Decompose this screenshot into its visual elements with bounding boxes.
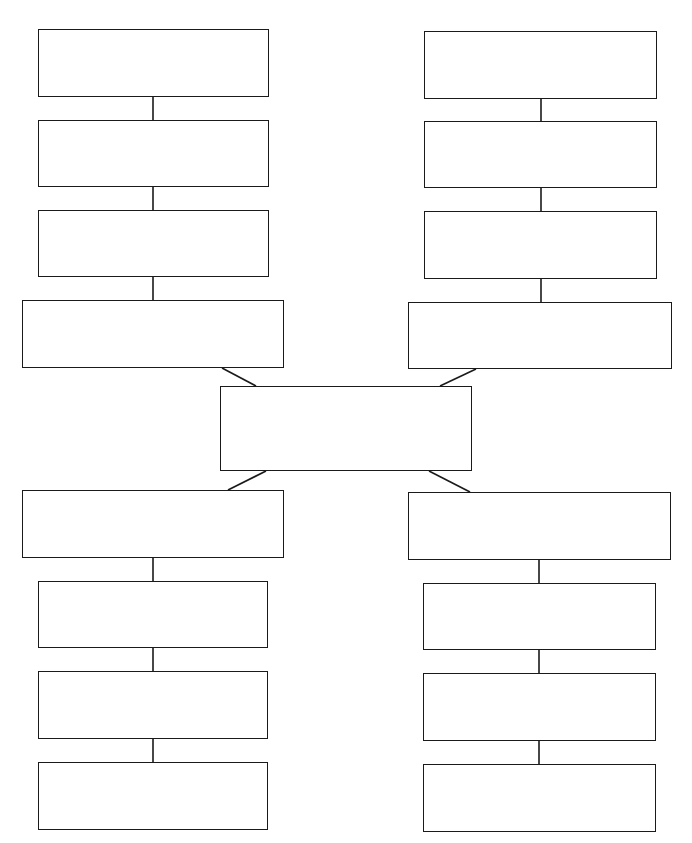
connector-line bbox=[222, 368, 256, 386]
top-left-box-2[interactable] bbox=[38, 120, 269, 187]
top-right-box-2[interactable] bbox=[424, 121, 657, 188]
bottom-right-box-4[interactable] bbox=[423, 764, 656, 832]
bottom-left-box-2[interactable] bbox=[38, 581, 268, 648]
center-box[interactable] bbox=[220, 386, 472, 471]
bottom-left-box-4[interactable] bbox=[38, 762, 268, 830]
bottom-left-box-1[interactable] bbox=[22, 490, 284, 558]
bottom-right-box-2[interactable] bbox=[423, 583, 656, 650]
top-left-box-4[interactable] bbox=[22, 300, 284, 368]
bottom-left-box-3[interactable] bbox=[38, 671, 268, 739]
top-right-box-3[interactable] bbox=[424, 211, 657, 279]
top-left-box-1[interactable] bbox=[38, 29, 269, 97]
top-left-box-3[interactable] bbox=[38, 210, 269, 277]
connector-line bbox=[228, 471, 266, 490]
connector-line bbox=[440, 369, 476, 386]
connector-line bbox=[429, 471, 470, 492]
bottom-right-box-1[interactable] bbox=[408, 492, 671, 560]
top-right-box-4[interactable] bbox=[408, 302, 672, 369]
graphic-organizer-canvas bbox=[0, 0, 692, 843]
bottom-right-box-3[interactable] bbox=[423, 673, 656, 741]
top-right-box-1[interactable] bbox=[424, 31, 657, 99]
